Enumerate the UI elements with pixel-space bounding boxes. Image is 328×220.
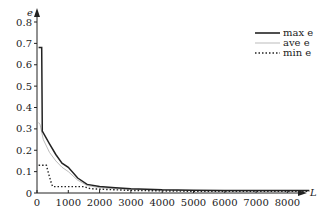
x-tick-label: 1000 [56,197,81,208]
y-tick-label: 0.6 [16,59,32,70]
x-tick-label: 2000 [87,197,112,208]
y-axis-ticks: 00.10.20.30.40.50.60.70.8 [16,17,37,199]
y-tick-label: 0.4 [16,102,32,113]
x-tick-label: 3000 [118,197,143,208]
x-tick-label: 0 [34,197,40,208]
line-chart: 00.10.20.30.40.50.60.70.8 01000200030004… [0,0,328,220]
series-max-e [39,48,310,191]
y-tick-label: 0.5 [16,81,32,92]
x-tick-label: 5000 [181,197,206,208]
y-axis-label: e [27,7,33,18]
y-tick-label: 0.2 [16,145,32,156]
x-tick-label: 4000 [149,197,174,208]
series-layer [39,48,310,192]
x-tick-label: 8000 [275,197,300,208]
x-axis-label: L [309,187,317,198]
y-tick-label: 0 [26,188,32,199]
y-axis-arrow-icon [34,8,40,17]
y-tick-label: 0.7 [16,38,32,49]
legend-label-min: min e [283,47,311,58]
y-tick-label: 0.8 [16,17,32,28]
y-tick-label: 0.1 [16,166,32,177]
x-tick-label: 7000 [243,197,268,208]
x-tick-label: 6000 [212,197,237,208]
y-tick-label: 0.3 [16,123,32,134]
legend: max e ave e min e [255,27,313,58]
series-ave-e [39,123,310,191]
